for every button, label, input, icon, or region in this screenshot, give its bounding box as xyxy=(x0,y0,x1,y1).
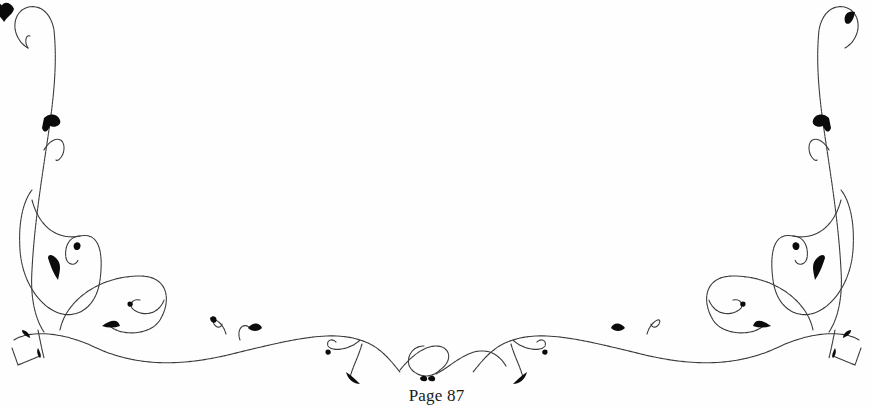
center-knot xyxy=(400,346,506,381)
left-flourish xyxy=(0,3,400,384)
page-number: Page 87 xyxy=(0,386,873,406)
vine-flourish-icon xyxy=(0,0,873,410)
document-page: Page 87 xyxy=(0,0,873,410)
right-flourish xyxy=(473,7,861,384)
